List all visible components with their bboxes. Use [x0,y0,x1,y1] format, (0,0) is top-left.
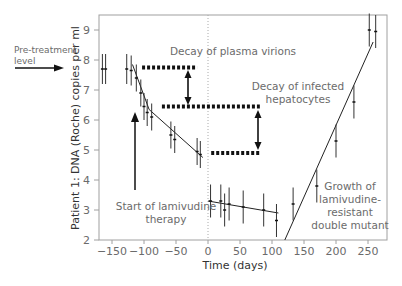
x-axis: −150−100−50050100150200250 [97,240,379,258]
y-tick-label: 5 [83,144,90,157]
pretreatment-label: Pre-treatment [14,45,77,55]
plasma-decay-label: Decay of plasma virions [170,45,296,57]
data-point [223,194,226,227]
hepatocyte-decay-label: Decay of infected [252,80,345,92]
x-tick-label: −100 [129,245,159,258]
x-tick-label: 250 [358,245,379,258]
data-point [199,141,202,168]
y-axis-label: Patient 1: DNA (Roche) copies per ml [69,26,82,230]
y-tick-label: 7 [83,84,90,97]
y-tick-label: 9 [83,24,90,37]
x-tick-label: 100 [262,245,283,258]
pretreatment-label-2: level [14,56,35,66]
x-tick-label: 50 [233,245,247,258]
data-point [143,93,146,120]
data-point [101,54,104,84]
start-therapy-label: Start of lamivudine [116,200,217,212]
y-tick-label: 2 [83,234,90,247]
y-tick-label: 3 [83,204,90,217]
data-point [135,65,138,92]
data-point [292,188,295,221]
hepatocyte-decay-label-2: hepatocytes [266,93,331,105]
data-point [368,14,371,47]
data-point [169,122,172,149]
x-tick-label: −50 [164,245,187,258]
data-point [315,170,318,203]
x-tick-label: 150 [294,245,315,258]
y-tick-label: 4 [83,174,90,187]
data-point [196,138,199,165]
data-point [219,185,222,218]
data-point [125,54,128,84]
data-point [130,56,133,86]
data-point [146,99,149,126]
growth-label: Growth of [324,180,376,192]
y-tick-label: 8 [83,54,90,67]
x-tick-label: 0 [205,245,212,258]
x-tick-label: −150 [97,245,127,258]
y-axis: 23456789 [83,24,99,247]
data-point [173,126,176,153]
y-tick-label: 6 [83,114,90,127]
data-point [374,15,377,48]
dashed-level-lines [142,68,260,154]
double-arrow-hepatocytes [255,110,262,150]
double-arrow-plasma [185,70,192,105]
chart: 23456789 −150−100−50050100150200250 Time… [0,0,402,286]
growth-label-2: lamivudine- [319,193,381,205]
data-point [275,204,278,237]
growth-label-3: resistant [327,206,373,218]
data-point [150,104,153,131]
data-point [104,54,107,84]
data-point [242,191,245,224]
fit-line [149,110,203,158]
data-point [335,125,338,158]
start-therapy-label-2: therapy [146,213,187,225]
data-point [262,194,265,227]
data-point [352,86,355,119]
start-therapy-arrow [131,112,139,190]
data-point [228,188,231,221]
x-tick-label: 200 [326,245,347,258]
growth-label-4: double mutant [311,219,388,231]
x-axis-label: Time (days) [202,259,268,272]
